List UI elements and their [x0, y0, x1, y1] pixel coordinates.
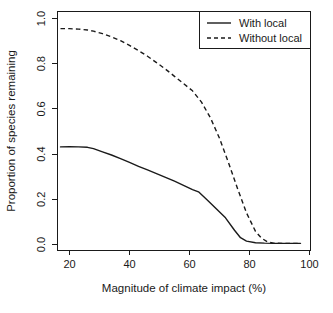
x-tick-label: 40: [123, 258, 135, 270]
y-tick-label: 0.6: [35, 101, 47, 116]
x-tick-label: 100: [300, 258, 318, 270]
y-tick-label: 1.0: [35, 11, 47, 26]
legend-label-with-local: With local: [239, 17, 287, 29]
chart-canvas: 20 40 60 80 100 0.0 0.2 0.4 0.6 0.8 1.0 …: [0, 0, 333, 313]
y-tick-label: 0.8: [35, 56, 47, 71]
y-tick-label: 0.0: [35, 237, 47, 252]
y-tick-label: 0.2: [35, 192, 47, 207]
x-axis-title: Magnitude of climate impact (%): [102, 282, 266, 294]
legend: With local Without local: [200, 12, 311, 49]
y-axis-title: Proportion of species remaining: [5, 50, 17, 212]
y-tick-label: 0.4: [35, 146, 47, 161]
x-tick-label: 20: [63, 258, 75, 270]
legend-label-without-local: Without local: [239, 32, 302, 44]
x-tick-label: 60: [183, 258, 195, 270]
x-tick-label: 80: [243, 258, 255, 270]
figure-container: 20 40 60 80 100 0.0 0.2 0.4 0.6 0.8 1.0 …: [0, 0, 333, 313]
